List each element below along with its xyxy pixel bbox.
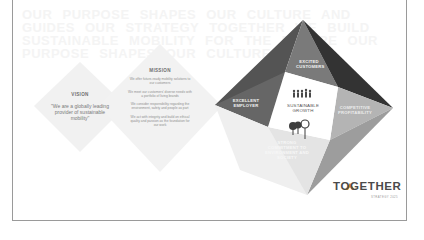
excellent-employer-label: EXCELLENT EMPLOYER	[232, 98, 260, 108]
mission-line: We meet our customers' diverse needs wit…	[128, 90, 192, 99]
vision-quote: "We are a globally leading provider of s…	[50, 103, 110, 121]
logo-subtitle: STRATEGY 2025	[371, 195, 398, 199]
mission-title: MISSION	[128, 68, 192, 73]
environment-society-label: STRONG COMMITMENT TO ENVIRONMENT AND SOC…	[262, 140, 312, 160]
mission-block: MISSION We offer future-ready mobility s…	[128, 68, 192, 128]
mission-line: We consider responsibility regarding the…	[128, 102, 192, 111]
mission-line: We act with integrity and build on ethic…	[128, 115, 192, 128]
excited-customers-label: EXCITED CUSTOMERS	[296, 59, 322, 69]
sustainable-growth-label: SUSTAINABLE GROWTH	[287, 103, 319, 113]
vision-title: VISION	[50, 92, 110, 97]
competitive-profitability-label: COMPETITIVE PROFITABILITY	[335, 105, 375, 115]
together-logo: TOGETHER	[333, 180, 401, 192]
vision-block: VISION "We are a globally leading provid…	[50, 92, 110, 121]
mission-line: We offer future-ready mobility solutions…	[128, 77, 192, 86]
